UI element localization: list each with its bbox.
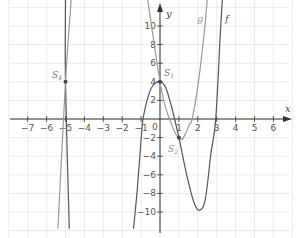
x-axis-label: x — [285, 103, 291, 114]
x-tick-label: −3 — [97, 123, 110, 133]
point-label-s4: S4 — [52, 70, 62, 81]
origin-label: 0 — [152, 122, 158, 132]
x-tick-label: −7 — [21, 123, 34, 133]
x-tick-label: 2 — [195, 123, 201, 133]
y-tick-label: 10 — [145, 21, 157, 31]
y-tick-label: −8 — [143, 188, 157, 198]
curve-label-g: g — [197, 13, 203, 24]
y-tick-label: 2 — [150, 95, 156, 105]
y-tick-label: −6 — [143, 170, 157, 180]
x-axis-arrow-icon — [283, 116, 292, 122]
curve-g_left — [58, 0, 71, 229]
x-tick-label: −4 — [78, 123, 92, 133]
y-tick-label: −10 — [137, 207, 156, 217]
axes — [10, 3, 292, 233]
function-plot: −7−6−5−4−3−2−1123456−10−8−6−4−2246810 x … — [0, 0, 300, 238]
y-tick-label: 6 — [150, 58, 156, 68]
point-s1 — [158, 80, 162, 84]
x-tick-label: 5 — [252, 123, 258, 133]
x-tick-label: 4 — [233, 123, 239, 133]
point-label-s1: S1 — [164, 68, 174, 79]
y-axis-label: y — [165, 8, 172, 19]
point-s4 — [64, 80, 68, 84]
x-tick-label: −6 — [40, 123, 54, 133]
x-tick-label: −5 — [59, 123, 72, 133]
curve-label-f: f — [224, 13, 231, 24]
y-tick-label: −4 — [143, 151, 157, 161]
s4-sub: 4 — [57, 74, 62, 81]
point-label-s2: S2 — [168, 144, 178, 155]
s2-sub: 2 — [173, 148, 178, 155]
y-tick-label: −2 — [143, 133, 156, 143]
point-s2 — [177, 136, 181, 140]
s1-sub: 1 — [170, 72, 174, 79]
x-tick-label: −2 — [116, 123, 129, 133]
x-tick-label: 6 — [271, 123, 277, 133]
